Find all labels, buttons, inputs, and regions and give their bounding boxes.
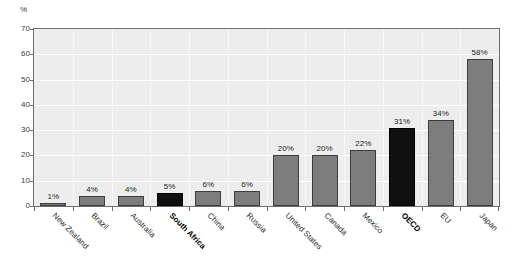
y-axis-tick-label: 10: [10, 177, 30, 185]
x-axis-category-label: South Africa: [167, 211, 207, 251]
y-axis-tick-label: 50: [10, 76, 30, 84]
y-axis-tick-label: 60: [10, 50, 30, 58]
bar-value-label: 5%: [164, 182, 176, 191]
y-axis-unit-label: %: [20, 5, 27, 14]
x-axis-category-label: Russia: [245, 211, 269, 235]
y-axis-tick-label: 70: [10, 25, 30, 33]
bar-value-label: 34%: [433, 109, 449, 118]
y-axis-tick-label: 40: [10, 101, 30, 109]
y-axis-tick-label: 0: [10, 202, 30, 210]
bar[interactable]: [157, 193, 183, 206]
bar-value-label: 22%: [355, 139, 371, 148]
bar-value-label: 4%: [125, 185, 137, 194]
x-axis-category-label: Australia: [129, 211, 157, 239]
bar[interactable]: [195, 191, 221, 206]
y-axis-tick-label: 20: [10, 151, 30, 159]
bar[interactable]: [234, 191, 260, 206]
bar-group: 20%: [305, 29, 344, 206]
bar-value-label: 6%: [203, 180, 215, 189]
x-axis-category-label: Mexico: [361, 211, 385, 235]
y-axis-tick-label: 30: [10, 126, 30, 134]
bar[interactable]: [467, 59, 493, 206]
bars-layer: 1%4%4%5%6%6%20%20%22%31%34%58%: [34, 29, 499, 206]
bar-value-label: 1%: [48, 192, 60, 201]
bar-value-label: 4%: [86, 185, 98, 194]
x-axis-category-label: Brazil: [90, 211, 111, 232]
bar-value-label: 6%: [241, 180, 253, 189]
y-axis-labels: 706050403020100: [8, 28, 30, 207]
bar-value-label: 20%: [317, 144, 333, 153]
bar-group: 22%: [344, 29, 383, 206]
bar-chart-figure: % 706050403020100 1%4%4%5%6%6%20%20%22%3…: [0, 0, 515, 259]
bar-group: 20%: [267, 29, 306, 206]
bar[interactable]: [428, 120, 454, 206]
bar[interactable]: [389, 128, 415, 206]
bar[interactable]: [118, 196, 144, 206]
bar-group: 31%: [383, 29, 422, 206]
x-axis-category-label: New Zealand: [51, 211, 91, 251]
bar-group: 4%: [112, 29, 151, 206]
x-axis-category-label: Canada: [322, 211, 348, 237]
bar[interactable]: [40, 203, 66, 206]
bar[interactable]: [79, 196, 105, 206]
bar-value-label: 58%: [472, 48, 488, 57]
bar-group: 5%: [150, 29, 189, 206]
bar-value-label: 20%: [278, 144, 294, 153]
bar-group: 1%: [34, 29, 73, 206]
x-axis-category-label: OECD: [400, 211, 423, 234]
bar[interactable]: [312, 155, 338, 206]
bar[interactable]: [350, 150, 376, 206]
bar-value-label: 31%: [394, 117, 410, 126]
x-axis-category-label: United States: [284, 211, 324, 251]
bar-group: 58%: [460, 29, 499, 206]
bar-group: 6%: [228, 29, 267, 206]
x-axis-category-label: EU: [439, 211, 453, 225]
bar-group: 34%: [422, 29, 461, 206]
bar-group: 4%: [73, 29, 112, 206]
bar-group: 6%: [189, 29, 228, 206]
x-axis-category-label: Japan: [477, 211, 499, 233]
x-axis-category-label: China: [206, 211, 227, 232]
x-axis-labels: New ZealandBrazilAustraliaSouth AfricaCh…: [34, 211, 499, 259]
bar[interactable]: [273, 155, 299, 206]
